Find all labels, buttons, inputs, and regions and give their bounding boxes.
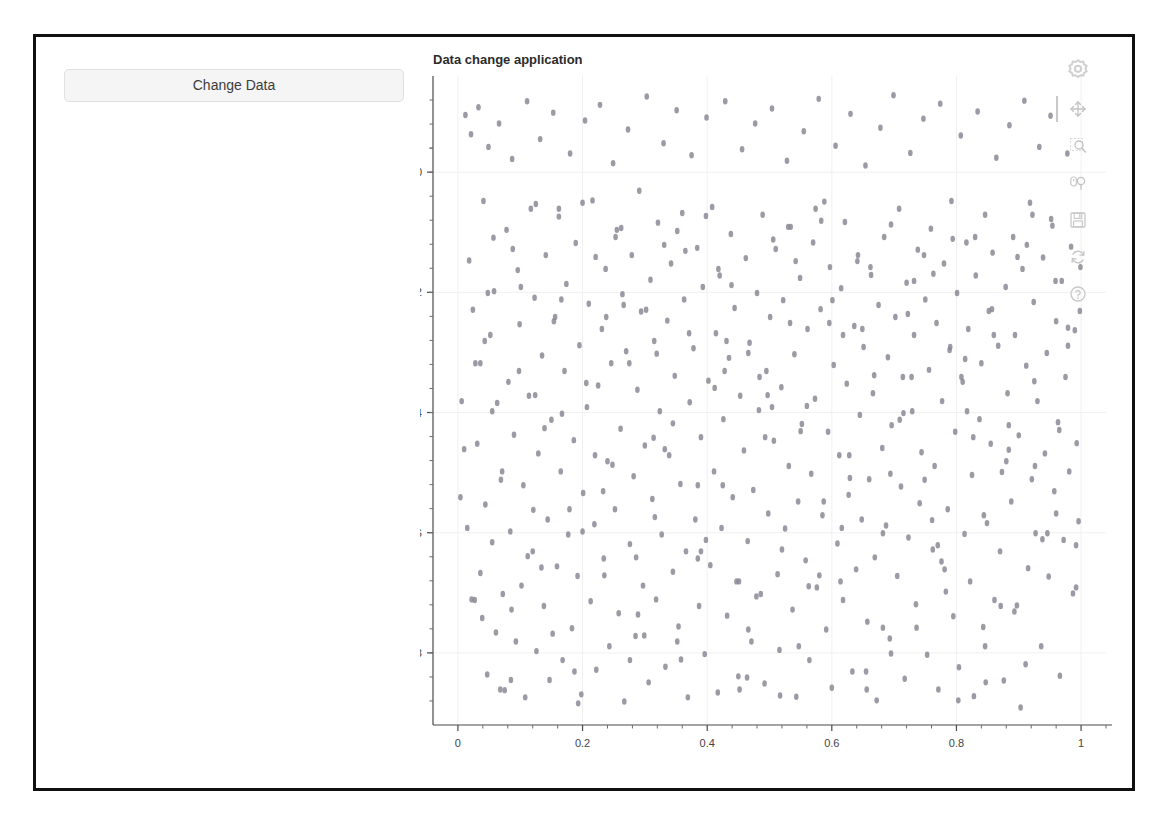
axes (433, 76, 1112, 725)
bokeh-toolbar (1058, 58, 1098, 328)
svg-text:-0.4: -0.4 (420, 407, 422, 419)
svg-text:-0.8: -0.8 (420, 647, 422, 659)
data-points (458, 92, 1083, 711)
pan-tool[interactable] (1063, 94, 1093, 124)
svg-text:0: 0 (420, 166, 422, 178)
plot-svg[interactable]: 00.20.40.60.810-0.2-0.4-0.6-0.8 (420, 70, 1120, 770)
change-data-button[interactable]: Change Data (64, 69, 404, 102)
svg-text:1: 1 (1078, 737, 1084, 749)
svg-text:0.2: 0.2 (575, 737, 590, 749)
svg-text:0.6: 0.6 (824, 737, 839, 749)
svg-text:0: 0 (455, 737, 461, 749)
grid-lines (433, 76, 1106, 725)
tick-marks: 00.20.40.60.810-0.2-0.4-0.6-0.8 (420, 100, 1106, 749)
svg-text:0.4: 0.4 (700, 737, 715, 749)
app-root: Change Data Data change application 00.2… (0, 0, 1171, 833)
bokeh-logo-icon[interactable] (1067, 58, 1089, 84)
save-tool[interactable] (1063, 205, 1093, 235)
svg-text:0.8: 0.8 (949, 737, 964, 749)
help-tool[interactable] (1063, 279, 1093, 309)
scatter-plot: Data change application 00.20.40.60.810-… (420, 48, 1120, 778)
wheel-zoom-tool[interactable] (1063, 168, 1093, 198)
plot-canvas[interactable]: 00.20.40.60.810-0.2-0.4-0.6-0.8 (420, 70, 1120, 770)
svg-text:-0.6: -0.6 (420, 527, 422, 539)
plot-title: Data change application (433, 52, 583, 67)
reset-tool[interactable] (1063, 242, 1093, 272)
box-zoom-tool[interactable] (1063, 131, 1093, 161)
svg-text:-0.2: -0.2 (420, 286, 422, 298)
